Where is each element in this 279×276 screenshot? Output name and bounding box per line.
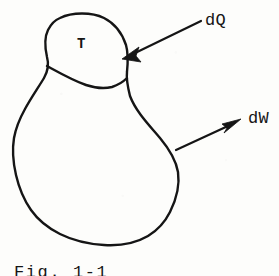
subsystem-divider-line	[47, 66, 127, 88]
system-boundary-outline	[13, 14, 179, 246]
work-label: dW	[248, 110, 269, 127]
heat-arrow-shaft	[133, 21, 201, 54]
figure-caption: Fig. 1-1	[14, 263, 108, 276]
work-arrow-shaft	[176, 126, 228, 150]
work-arrow-head-icon	[222, 119, 241, 133]
heat-arrow-head-icon	[122, 47, 141, 62]
heat-label: dQ	[205, 12, 226, 29]
temperature-label: T	[77, 37, 86, 51]
figure-container: T dQ dW Fig. 1-1	[0, 0, 279, 276]
thermodynamic-system-drawing	[0, 0, 279, 276]
